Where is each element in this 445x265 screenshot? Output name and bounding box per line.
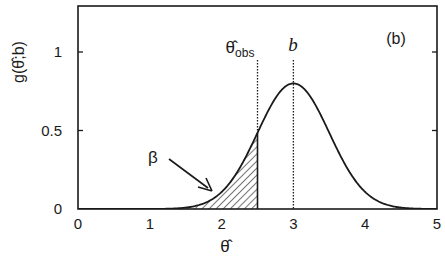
- y-axis-label: g(θ̂;b): [10, 41, 27, 83]
- x-tick-label: 5: [433, 215, 441, 232]
- x-tick-label: 4: [361, 215, 369, 232]
- y-tick-label: 0: [54, 200, 62, 217]
- theta-obs-label: θ̂obs: [226, 38, 255, 60]
- y-tick-label: 0.5: [41, 122, 62, 139]
- y-axis-tick-labels: 00.51: [41, 43, 62, 217]
- x-axis-tick-labels: 012345: [74, 215, 441, 232]
- beta-arrow: [169, 159, 212, 191]
- beta-label: β: [148, 148, 158, 167]
- x-tick-label: 2: [217, 215, 225, 232]
- chart-figure: 012345 00.51 θ̂ g(θ̂;b) (b) θ̂obs b β: [0, 0, 445, 265]
- x-tick-label: 3: [289, 215, 297, 232]
- x-tick-label: 0: [74, 215, 82, 232]
- x-axis-label: θ̂: [220, 237, 232, 256]
- beta-shaded-region: [78, 133, 258, 209]
- x-tick-label: 1: [146, 215, 154, 232]
- b-label: b: [288, 34, 298, 55]
- panel-label: (b): [386, 30, 406, 47]
- y-tick-label: 1: [54, 43, 62, 60]
